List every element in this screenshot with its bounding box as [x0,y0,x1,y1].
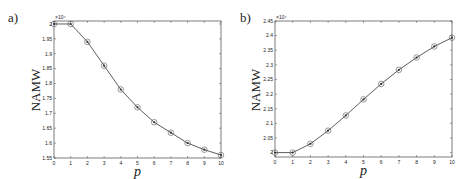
data-point-dot [187,142,189,144]
y-tick-label: 1.65 [42,125,52,131]
y-axis-label: NAMW [248,68,263,111]
x-tick-label: 0 [274,159,277,165]
figure: a)×10⁴0123456789101.551.61.651.71.751.81… [0,0,464,179]
data-point-dot [153,121,155,123]
data-point-dot [309,143,311,145]
x-tick-label: 4 [344,159,347,165]
data-line [54,24,221,155]
data-point-dot [416,56,418,58]
data-point-dot [451,37,453,39]
x-tick-label: 6 [153,160,156,166]
data-point-dot [398,69,400,71]
x-axis: 012345678910 [53,21,224,166]
x-tick-label: 7 [398,159,401,165]
data-point-dot [274,152,276,154]
x-tick-label: 3 [103,160,106,166]
plot-frame [54,21,221,158]
x-tick-label: 2 [86,160,89,166]
y-tick-label: 1.8 [45,80,52,86]
chart-panel-b: b)×10⁴01234567891022.052.12.152.22.252.3… [240,10,455,178]
x-tick-label: 1 [69,160,72,166]
figure-canvas: a)×10⁴0123456789101.551.61.651.71.751.81… [0,0,464,179]
data-point-dot [220,154,222,156]
y-tick-label: 1.9 [45,51,52,57]
data-point-dot [380,83,382,85]
y-axis: 22.052.12.152.22.252.32.352.42.45 [263,18,452,156]
y-tick-label: 2.4 [266,32,273,38]
data-point-dot [292,152,294,154]
data-point-dot [86,41,88,43]
y-tick-label: 2.35 [263,47,273,53]
data-point-dot [433,45,435,47]
x-tick-label: 4 [119,160,122,166]
x-tick-label: 10 [218,160,224,166]
data-point-dot [327,130,329,132]
y-tick-label: 2.2 [266,91,273,97]
y-axis: 1.551.61.651.71.751.81.851.91.952 [42,21,221,161]
y-tick-label: 1.6 [45,140,52,146]
x-tick-label: 0 [53,160,56,166]
y-axis-label: NAMW [28,68,43,111]
y-tick-label: 1.95 [42,36,52,42]
y-tick-label: 2.05 [263,135,273,141]
x-axis: 012345678910 [274,21,455,165]
data-point-dot [70,23,72,25]
x-tick-label: 6 [380,159,383,165]
data-point-dot [53,23,55,25]
x-tick-label: 9 [203,160,206,166]
data-line [275,38,452,153]
y-tick-label: 2.15 [263,106,273,112]
data-point-dot [170,132,172,134]
y-tick-label: 1.55 [42,155,52,161]
y-tick-label: 2.1 [266,120,273,126]
data-point-dot [120,88,122,90]
x-tick-label: 10 [449,159,455,165]
x-tick-label: 8 [415,159,418,165]
y-tick-label: 2.25 [263,76,273,82]
data-point-dot [362,98,364,100]
x-tick-label: 9 [433,159,436,165]
x-tick-label: 7 [170,160,173,166]
y-tick-label: 2.45 [263,18,273,24]
y-tick-label: 1.75 [42,95,52,101]
y-tick-label: 1.85 [42,65,52,71]
plot-frame [275,21,452,157]
panel-label: b) [240,10,251,25]
panel-label: a) [8,10,18,25]
data-point-dot [103,65,105,67]
y-tick-label: 2.3 [266,62,273,68]
data-point-dot [203,149,205,151]
x-tick-label: 2 [309,159,312,165]
x-tick-label: 3 [327,159,330,165]
x-tick-label: 1 [291,159,294,165]
x-axis-label: p [359,163,367,178]
chart-panel-a: a)×10⁴0123456789101.551.61.651.71.751.81… [8,10,224,179]
data-point-dot [136,106,138,108]
y-multiplier-label: ×10⁴ [55,14,66,20]
data-point-dot [345,114,347,116]
x-tick-label: 8 [186,160,189,166]
x-axis-label: p [133,164,141,179]
y-tick-label: 1.7 [45,110,52,116]
y-multiplier-label: ×10⁴ [276,14,287,20]
